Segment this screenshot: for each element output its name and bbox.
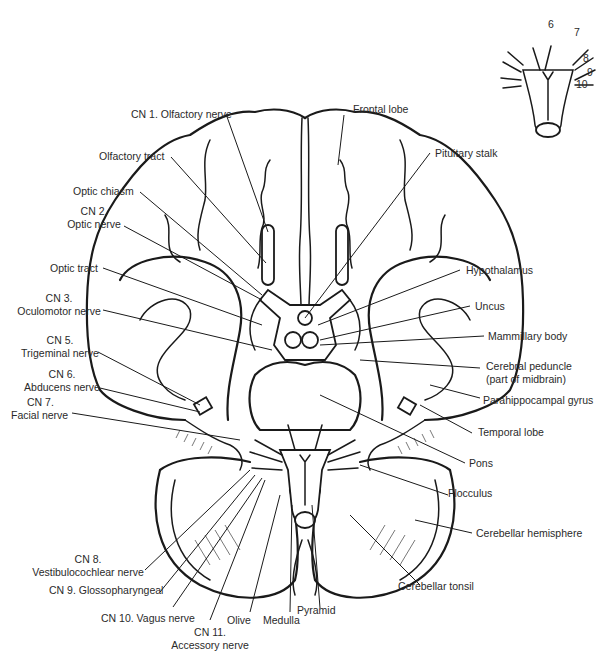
label-cn1-olfactory-nerve: CN 1. Olfactory nerve	[131, 108, 232, 121]
inset-number-9: 9	[587, 66, 593, 78]
label-cn2-optic-nerve: CN 2. Optic nerve	[64, 205, 124, 231]
label-optic-tract: Optic tract	[50, 262, 98, 275]
label-cn10-vagus-nerve: CN 10. Vagus nerve	[101, 612, 195, 625]
label-cn9-glossopharyngeal: CN 9. Glossopharyngeal	[49, 584, 163, 597]
inset-brainstem	[501, 46, 595, 137]
inset-number-8: 8	[583, 52, 589, 64]
label-cn7-facial-nerve: CN 7. Facial nerve	[11, 396, 71, 422]
label-cerebellar-tonsil: Cerebellar tonsil	[398, 580, 474, 593]
label-parahippocampal-gyrus: Parahippocampal gyrus	[483, 394, 593, 407]
label-olfactory-tract: Olfactory tract	[99, 150, 164, 163]
label-cn11-accessory-nerve: CN 11. Accessory nerve	[170, 626, 250, 652]
inset-number-6: 6	[548, 18, 554, 30]
label-temporal-lobe: Temporal lobe	[478, 426, 544, 439]
label-uncus: Uncus	[475, 300, 505, 313]
label-mammillary-body: Mammillary body	[488, 330, 567, 343]
label-cn5-trigeminal-nerve: CN 5. Trigeminal nerve	[20, 334, 100, 360]
inset-number-7: 7	[574, 26, 580, 38]
brain-inferior-view-diagram: CN 1. Olfactory nerve Olfactory tract Op…	[0, 0, 610, 656]
label-olive: Olive	[227, 614, 251, 627]
label-pyramid: Pyramid	[297, 604, 336, 617]
label-optic-chiasm: Optic chiasm	[73, 185, 134, 198]
label-cerebellar-hemisphere: Cerebellar hemisphere	[476, 527, 582, 540]
label-pituitary-stalk: Pituitary stalk	[435, 147, 497, 160]
label-flocculus: Flocculus	[448, 487, 492, 500]
label-frontal-lobe: Frontal lobe	[353, 103, 408, 116]
label-medulla: Medulla	[263, 614, 300, 627]
label-cn3-oculomotor-nerve: CN 3. Oculomotor nerve	[14, 292, 104, 318]
label-cn8-vestibulocochlear-nerve: CN 8. Vestibulocochlear nerve	[28, 553, 148, 579]
label-cerebral-peduncle: Cerebral peduncle (part of midbrain)	[486, 360, 572, 386]
inset-number-10: 10	[576, 78, 588, 90]
label-hypothalamus: Hypothalamus	[466, 264, 533, 277]
label-cn6-abducens-nerve: CN 6. Abducens nerve	[22, 368, 102, 394]
label-pons: Pons	[469, 457, 493, 470]
